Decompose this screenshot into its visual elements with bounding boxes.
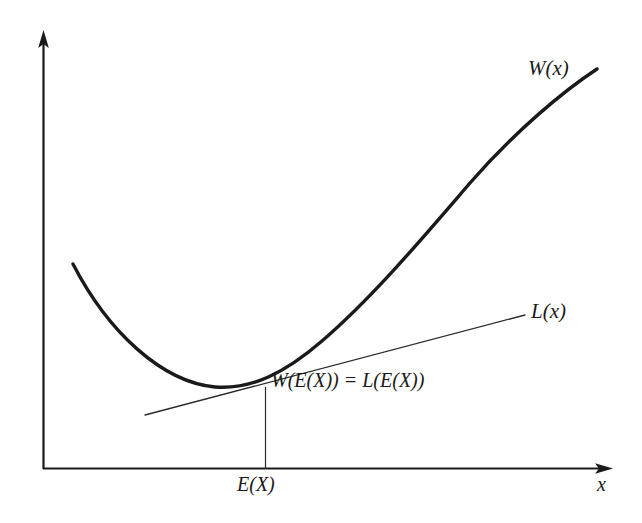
line-label-lx: L(x)	[531, 301, 566, 322]
x-axis-label: x	[597, 474, 606, 494]
tangency-equation-label: W(E(X)) = L(E(X))	[271, 370, 424, 390]
x-axis-tick-label-expectation: E(X)	[237, 474, 275, 494]
convex-curve-wx	[73, 69, 597, 387]
convexity-diagram: W(x) L(x) W(E(X)) = L(E(X)) E(X) x	[0, 0, 642, 523]
curve-label-wx: W(x)	[528, 58, 569, 79]
y-axis-group	[38, 30, 49, 469]
x-axis-group	[43, 463, 613, 474]
